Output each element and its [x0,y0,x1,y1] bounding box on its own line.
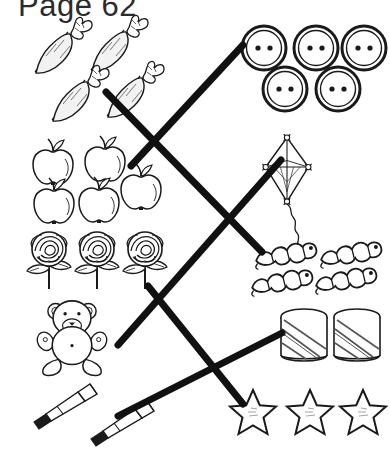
drum-icon [334,309,380,361]
pencil-icon [91,401,154,446]
group-drums[interactable] [281,309,380,361]
carrot-icon [52,65,109,121]
group-kite[interactable] [262,134,311,247]
carrot-icon [91,15,148,71]
button-icon [242,26,286,70]
connection-line-apples-buttons[interactable] [131,45,243,166]
apple-icon [85,136,125,182]
pencil-icon [34,384,97,429]
apple-icon [33,139,73,185]
group-roses[interactable] [27,232,167,289]
button-icon [294,26,338,70]
caterpillar-icon [249,268,314,297]
group-worms[interactable] [249,240,383,297]
star-icon [287,390,333,434]
worksheet-page: Page 62 [0,0,390,454]
star-icon [340,390,386,434]
group-stars[interactable] [230,390,386,434]
rose-icon [123,232,167,289]
group-bear[interactable] [34,301,110,376]
apple-icon [79,177,119,223]
group-pencils[interactable] [34,384,154,446]
rose-icon [75,232,119,289]
caterpillar-icon [313,266,378,295]
connection-line-roses-stars[interactable] [148,286,243,404]
connection-line-carrots-worms[interactable] [106,92,262,252]
button-icon [316,67,360,111]
button-icon [342,26,386,70]
group-buttons[interactable] [242,26,386,111]
carrot-icon [107,61,164,117]
apple-icon [121,164,161,210]
group-carrots[interactable] [35,15,164,121]
worksheet-artwork [0,0,390,454]
apple-icon [34,178,74,224]
carrot-icon [35,17,92,73]
caterpillar-icon [318,240,383,269]
drum-icon [281,309,327,361]
teddy-bear-icon [34,301,110,376]
kite-icon [262,134,311,247]
rose-icon [27,232,71,289]
button-icon [263,67,307,111]
